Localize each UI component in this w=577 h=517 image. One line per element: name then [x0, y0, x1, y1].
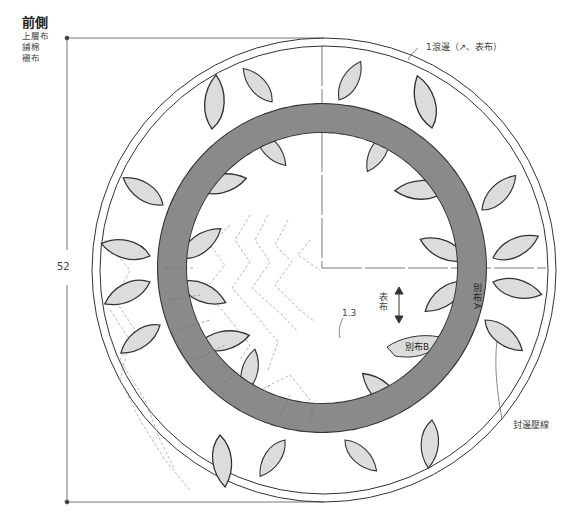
quilt-diagram	[0, 0, 577, 517]
edge-quilting-label: 封邊壓線	[513, 421, 549, 430]
fabric-a-label: 別布A	[472, 283, 481, 310]
fabric-b-label: 別布B	[405, 343, 429, 352]
height-label: 52	[57, 262, 70, 272]
binding-label: 1滾邊（↗、表布）	[426, 43, 502, 52]
dimension-line	[65, 36, 324, 504]
grain-label: 表布	[378, 292, 387, 312]
grain-arrow-icon	[395, 287, 403, 323]
spacing-label: 1.3	[342, 309, 356, 318]
